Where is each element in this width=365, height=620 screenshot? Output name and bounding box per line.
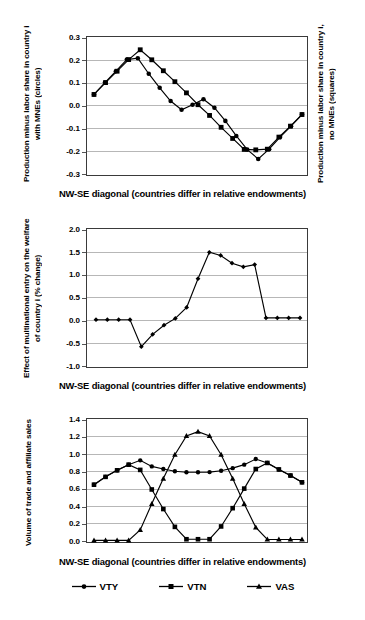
y-tick-mark (82, 83, 86, 84)
square-marker-icon (158, 581, 184, 592)
series-vty (92, 457, 304, 487)
y-tick-label: -0.3 (56, 171, 80, 179)
series-layer (87, 37, 309, 177)
panel-1-y-axis-title-right: Production minus labor share in country … (316, 20, 346, 188)
circle-marker-icon (71, 581, 97, 592)
panel-1-plot-area: 0.30.20.10.0-0.1-0.2-0.3 (86, 36, 308, 176)
y-tick-label: 0.2 (56, 57, 80, 65)
y-tick-label: 0.0 (56, 538, 80, 546)
chart-panel-3: Volume of trade and affiliate sales 1.41… (0, 396, 365, 620)
y-tick-label: -0.1 (56, 125, 80, 133)
y-tick-label: -0.5 (56, 340, 80, 348)
panel-2-plot-area: 2.01.51.00.50.0-0.5-1.0 (86, 228, 308, 368)
y-tick-label: -1.0 (56, 363, 80, 371)
y-tick-label: 0.5 (56, 294, 80, 302)
plot-frame (86, 418, 308, 543)
series-vas (91, 429, 305, 543)
series-welfare-effect-of-multinational-entry (94, 250, 303, 349)
y-tick-label: 0.2 (56, 520, 80, 528)
y-tick-label: 1.4 (56, 416, 80, 424)
y-tick-mark (82, 60, 86, 61)
y-tick-mark (82, 174, 86, 175)
legend-item-vty[interactable]: VTY (71, 581, 119, 592)
y-tick-mark (82, 541, 86, 542)
y-tick-mark (82, 321, 86, 322)
series-production-minus-labor-share,-with-mnes (92, 56, 305, 161)
y-tick-mark (82, 344, 86, 345)
y-tick-mark (82, 454, 86, 455)
y-tick-label: 2.0 (56, 226, 80, 234)
legend-item-vas[interactable]: VAS (246, 581, 294, 592)
y-tick-mark (82, 298, 86, 299)
legend-item-vtn[interactable]: VTN (158, 581, 206, 592)
panel-1-y-axis-title: Production minus labor share in country … (22, 24, 52, 184)
y-tick-mark (82, 38, 86, 39)
chart-panel-2: Effect of multinational entry on the wel… (0, 208, 365, 396)
y-tick-mark (82, 489, 86, 490)
y-tick-mark (82, 472, 86, 473)
y-tick-label: -0.2 (56, 148, 80, 156)
y-tick-label: 0.3 (56, 34, 80, 42)
y-tick-mark (82, 524, 86, 525)
y-tick-label: 0.1 (56, 79, 80, 87)
panel-2-x-axis-caption: NW-SE diagonal (countries differ in rela… (0, 380, 365, 391)
panel-1-x-axis-caption: NW-SE diagonal (countries differ in rela… (0, 188, 365, 199)
legend-label: VTY (100, 581, 119, 592)
panel-3-x-axis-caption: NW-SE diagonal (countries differ in rela… (0, 556, 365, 567)
figure-page: Production minus labor share in country … (0, 0, 365, 620)
plot-frame (86, 228, 308, 368)
chart-panel-1: Production minus labor share in country … (0, 0, 365, 208)
y-tick-mark (82, 252, 86, 253)
y-tick-label: 0.6 (56, 485, 80, 493)
legend-label: VAS (275, 581, 294, 592)
y-tick-label: 0.0 (56, 317, 80, 325)
panel-2-y-axis-title: Effect of multinational entry on the wel… (22, 218, 52, 378)
y-tick-mark (82, 420, 86, 421)
panel-3-plot-area: 1.41.21.00.80.60.40.20.0 (86, 418, 308, 543)
y-tick-mark (82, 230, 86, 231)
y-tick-mark (82, 152, 86, 153)
legend-label: VTN (187, 581, 206, 592)
series-layer (87, 229, 309, 369)
y-tick-label: 0.8 (56, 468, 80, 476)
triangle-marker-icon (246, 581, 272, 592)
panel-3-legend: VTYVTNVAS (0, 578, 365, 594)
y-tick-label: 1.0 (56, 451, 80, 459)
panel-3-y-axis-title: Volume of trade and affiliate sales (24, 418, 50, 548)
y-tick-mark (82, 129, 86, 130)
y-tick-label: 1.0 (56, 271, 80, 279)
y-tick-mark (82, 437, 86, 438)
y-tick-label: 0.4 (56, 503, 80, 511)
y-tick-label: 1.5 (56, 249, 80, 257)
y-tick-mark (82, 507, 86, 508)
y-tick-mark (82, 275, 86, 276)
y-tick-label: 0.0 (56, 102, 80, 110)
plot-frame (86, 36, 308, 176)
y-tick-mark (82, 106, 86, 107)
series-layer (87, 419, 309, 544)
y-tick-mark (82, 366, 86, 367)
y-tick-label: 1.2 (56, 433, 80, 441)
